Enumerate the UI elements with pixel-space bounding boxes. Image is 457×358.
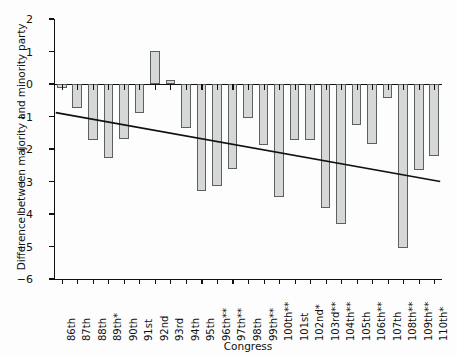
x-tick-label: 89th* — [112, 313, 123, 341]
x-tick-bottom — [388, 279, 389, 284]
y-tick-label: −6 — [0, 273, 33, 286]
x-axis-tick-labels: 86th87th88th89th*90th91st92nd93rd94th95t… — [54, 285, 442, 345]
x-tick-label: 100th** — [283, 302, 294, 341]
x-tick-label: 101st — [299, 313, 310, 341]
plot-area: 210−1−2−3−4−5−6 — [54, 19, 442, 279]
x-tick-bottom — [217, 279, 218, 284]
y-tick-label: 2 — [0, 13, 33, 26]
x-tick-bottom — [295, 279, 296, 284]
y-tick-label: −4 — [0, 208, 33, 221]
x-tick-label: 109th** — [423, 302, 434, 341]
x-tick-bottom — [357, 279, 358, 284]
x-tick-label: 94th — [190, 318, 201, 341]
x-tick-bottom — [372, 279, 373, 284]
x-tick-label: 96th** — [221, 308, 232, 341]
x-tick-bottom — [108, 279, 109, 284]
x-tick-label: 91st — [143, 319, 154, 341]
y-tick-label: −2 — [0, 143, 33, 156]
x-tick-bottom — [341, 279, 342, 284]
y-tick-label: −5 — [0, 240, 33, 253]
x-tick-bottom — [232, 279, 233, 284]
x-tick-label: 93rd — [174, 318, 185, 341]
x-tick-bottom — [326, 279, 327, 284]
x-tick-label: 104th** — [345, 302, 356, 341]
x-tick-bottom — [139, 279, 140, 284]
x-tick-bottom — [201, 279, 202, 284]
x-tick-label: 106th** — [376, 302, 387, 341]
y-tick-label: −3 — [0, 175, 33, 188]
x-tick-label: 90th — [128, 318, 139, 341]
x-tick-label: 105th — [361, 312, 372, 341]
x-tick-bottom — [419, 279, 420, 284]
x-tick-label: 99th** — [268, 308, 279, 341]
x-tick-bottom — [124, 279, 125, 284]
x-tick-bottom — [434, 279, 435, 284]
x-tick-label: 98th — [252, 318, 263, 341]
x-tick-label: 102nd* — [314, 304, 325, 341]
x-tick-label: 107th — [392, 312, 403, 341]
x-tick-label: 108th** — [407, 302, 418, 341]
y-tick-label: 1 — [0, 45, 33, 58]
x-tick-label: 110th* — [438, 307, 449, 341]
x-tick-bottom — [310, 279, 311, 284]
x-tick-bottom — [170, 279, 171, 284]
y-tick-label: −1 — [0, 110, 33, 123]
x-tick-label: 103rd** — [330, 302, 341, 341]
x-axis-title: Congress — [54, 340, 442, 352]
x-tick-bottom — [279, 279, 280, 284]
x-tick-bottom — [155, 279, 156, 284]
x-tick-bottom — [186, 279, 187, 284]
x-tick-label: 95th — [205, 318, 216, 341]
x-tick-bottom — [248, 279, 249, 284]
trendline — [54, 19, 442, 279]
y-tick-label: 0 — [0, 78, 33, 91]
x-tick-bottom — [62, 279, 63, 284]
x-tick-bottom — [264, 279, 265, 284]
chart-figure: Difference between majority and minority… — [0, 0, 457, 358]
x-tick-bottom — [77, 279, 78, 284]
x-tick-label: 86th — [66, 318, 77, 341]
x-tick-label: 97th** — [236, 308, 247, 341]
x-tick-bottom — [93, 279, 94, 284]
x-tick-label: 87th — [81, 318, 92, 341]
x-tick-bottom — [403, 279, 404, 284]
x-tick-label: 88th — [97, 318, 108, 341]
x-tick-label: 92nd — [159, 316, 170, 341]
